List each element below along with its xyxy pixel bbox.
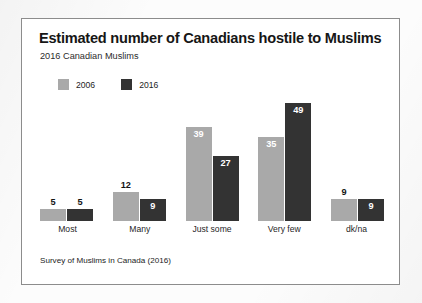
bar-value-dkna-2016: 9 xyxy=(368,202,373,211)
bar-wrap-most-2006: 5 xyxy=(40,103,66,221)
bar-many-2016[interactable]: 9 xyxy=(140,199,166,221)
bar-group-most: 5 5 xyxy=(40,103,93,221)
chart-figure-frame: Estimated number of Canadians hostile to… xyxy=(21,18,400,285)
bar-very-few-2006[interactable]: 35 xyxy=(258,137,284,221)
bar-wrap-just-some-2006: 39 xyxy=(186,103,212,221)
x-axis-label-dkna: dk/na xyxy=(329,224,384,234)
bar-wrap-very-few-2006: 35 xyxy=(258,103,284,221)
x-axis-label-just-some: Just some xyxy=(185,224,240,234)
bar-wrap-many-2016: 9 xyxy=(140,103,166,221)
bar-value-most-2016: 5 xyxy=(77,198,82,207)
bar-wrap-just-some-2016: 27 xyxy=(213,103,239,221)
x-axis-label-many: Many xyxy=(112,224,167,234)
chart-legend: 2006 2016 xyxy=(58,79,158,90)
bar-wrap-many-2006: 12 xyxy=(113,103,139,221)
bar-dkna-2016[interactable]: 9 xyxy=(358,199,384,221)
bar-value-dkna-2006: 9 xyxy=(341,188,346,197)
bar-value-very-few-2016: 49 xyxy=(293,106,303,115)
legend-item-2016[interactable]: 2016 xyxy=(121,79,158,90)
bar-most-2016[interactable]: 5 xyxy=(67,209,93,221)
bar-very-few-2016[interactable]: 49 xyxy=(285,103,311,221)
legend-label-2006: 2006 xyxy=(76,80,95,90)
legend-swatch-2006 xyxy=(58,79,69,90)
bar-many-2006[interactable]: 12 xyxy=(113,192,139,221)
bar-just-some-2016[interactable]: 27 xyxy=(213,156,239,221)
bar-wrap-dkna-2006: 9 xyxy=(331,103,357,221)
chart-source-note: Survey of Muslims in Canada (2016) xyxy=(40,256,171,265)
bar-group-just-some: 39 27 xyxy=(186,103,239,221)
page-title: Estimated number of Canadians hostile to… xyxy=(39,30,381,46)
bar-wrap-most-2016: 5 xyxy=(67,103,93,221)
bar-group-many: 12 9 xyxy=(113,103,166,221)
bar-value-many-2006: 12 xyxy=(121,181,131,190)
x-axis-labels: Most Many Just some Very few dk/na xyxy=(40,224,384,234)
bar-dkna-2006[interactable]: 9 xyxy=(331,199,357,221)
x-axis-label-most: Most xyxy=(40,224,95,234)
legend-label-2016: 2016 xyxy=(139,80,158,90)
legend-swatch-2016 xyxy=(121,79,132,90)
bar-value-most-2006: 5 xyxy=(50,198,55,207)
chart-subtitle: 2016 Canadian Muslims xyxy=(40,51,139,61)
bar-wrap-dkna-2016: 9 xyxy=(358,103,384,221)
bar-most-2006[interactable]: 5 xyxy=(40,209,66,221)
x-axis-label-very-few: Very few xyxy=(257,224,312,234)
bar-value-just-some-2016: 27 xyxy=(220,159,230,168)
bar-value-very-few-2006: 35 xyxy=(266,140,276,149)
bar-just-some-2006[interactable]: 39 xyxy=(186,127,212,221)
bar-value-just-some-2006: 39 xyxy=(193,130,203,139)
bar-groups: 5 5 12 9 3 xyxy=(40,103,384,221)
bar-wrap-very-few-2016: 49 xyxy=(285,103,311,221)
bar-value-many-2016: 9 xyxy=(150,202,155,211)
bar-group-very-few: 35 49 xyxy=(258,103,311,221)
bar-group-dkna: 9 9 xyxy=(331,103,384,221)
legend-item-2006[interactable]: 2006 xyxy=(58,79,95,90)
